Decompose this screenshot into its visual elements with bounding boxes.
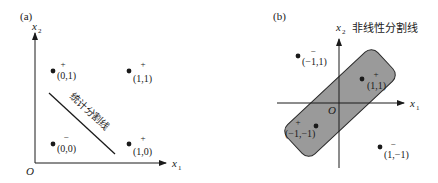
data-point-dot: [51, 69, 56, 74]
point-label: (−1,1): [302, 56, 327, 68]
origin-label: O: [26, 165, 34, 177]
point-label: (1,−1): [384, 149, 409, 161]
xor-diagram: (a) x 2 x 1 O 统计分割线 + (0,1) + (1,1) − (0…: [0, 0, 438, 183]
panel-a: (a) x 2 x 1 O 统计分割线 + (0,1) + (1,1) − (0…: [20, 10, 182, 177]
separator-label: 统计分割线: [68, 90, 113, 133]
point-0-0: − (0,0): [51, 132, 77, 155]
class-sign: −: [390, 139, 395, 149]
data-point-dot: [296, 54, 301, 59]
point-label: (1,1): [367, 80, 386, 92]
y-axis-subscript: 2: [38, 27, 42, 35]
separator-label: 非线性分割线: [352, 21, 418, 35]
class-sign: +: [140, 59, 145, 69]
point-1-0: + (1,0): [127, 133, 153, 158]
point-label: (0,0): [57, 143, 76, 155]
point-label: (1,1): [133, 73, 152, 85]
y-axis-subscript: 2: [342, 28, 346, 36]
origin-label: O: [328, 104, 336, 116]
point-label: (1,0): [133, 146, 152, 158]
y-axis-label: x: [335, 21, 341, 33]
point-neg1-1: − (−1,1): [296, 46, 327, 68]
point-label: (0,1): [57, 70, 76, 82]
class-sign: +: [295, 117, 300, 127]
class-sign: +: [60, 59, 65, 69]
panel-a-tag: (a): [20, 10, 33, 23]
point-0-1: + (0,1): [51, 59, 77, 82]
data-point-dot: [378, 145, 383, 150]
data-point-dot: [360, 77, 365, 82]
panel-b: (b) x 2 非线性分割线 x 1 O − (−1,1) + (1,1) + …: [273, 10, 420, 168]
class-sign: −: [63, 132, 68, 142]
data-point-dot: [127, 69, 132, 74]
panel-b-tag: (b): [273, 10, 286, 23]
class-sign: +: [373, 69, 378, 79]
point-label: (−1,−1): [285, 128, 315, 140]
point-1-1: + (1,1): [127, 59, 153, 85]
data-point-dot: [127, 142, 132, 147]
x-axis-subscript: 1: [178, 164, 182, 172]
y-axis-label: x: [31, 20, 37, 32]
x-axis-label: x: [409, 97, 415, 109]
class-sign: −: [310, 46, 315, 56]
x-axis-subscript: 1: [416, 104, 420, 112]
data-point-dot: [51, 142, 56, 147]
class-sign: +: [140, 133, 145, 143]
x-axis-label: x: [171, 157, 177, 169]
point-1-neg1: − (1,−1): [378, 139, 409, 161]
